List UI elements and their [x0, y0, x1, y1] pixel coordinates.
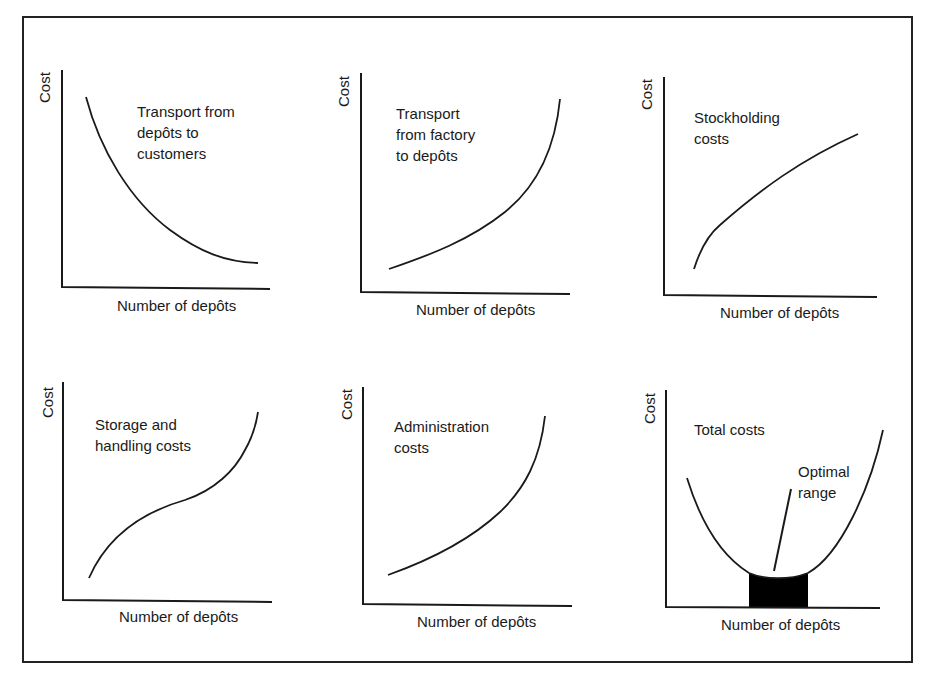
cost-curve: [687, 430, 883, 578]
panel-total-costs: Cost Number of depôts Total costs Optima…: [641, 390, 883, 633]
annotation-line-1: Optimal: [798, 463, 850, 480]
panel-title-line-2: handling costs: [95, 437, 191, 454]
cost-curve: [389, 99, 560, 269]
panel-title-line-1: Stockholding: [694, 109, 780, 126]
panel-storage-handling-costs: Cost Number of depôts Storage and handli…: [39, 382, 272, 625]
depot-cost-diagram: Cost Number of depôts Transport from dep…: [0, 0, 927, 681]
panel-stockholding-costs: Cost Number of depôts Stockholding costs: [638, 77, 877, 321]
y-axis-label: Cost: [638, 78, 655, 110]
x-axis-label: Number of depôts: [119, 608, 238, 625]
y-axis-label: Cost: [36, 71, 53, 103]
panel-title-line-2: costs: [394, 439, 429, 456]
panel-title-line-2: depôts to: [137, 124, 199, 141]
x-axis-label: Number of depôts: [720, 304, 839, 321]
panel-title-line-1: Transport: [396, 105, 460, 122]
y-axis-label: Cost: [39, 386, 56, 418]
panel-administration-costs: Cost Number of depôts Administration cos…: [338, 387, 572, 630]
panel-title-line-1: Storage and: [95, 416, 177, 433]
y-axis-label: Cost: [641, 392, 658, 424]
cost-curve: [694, 134, 858, 269]
y-axis-label: Cost: [335, 75, 352, 107]
panel-title-line-1: Administration: [394, 418, 489, 435]
panel-title-line-2: costs: [694, 130, 729, 147]
optimal-range-pointer: [774, 489, 791, 571]
panel-title-line-2: from factory: [396, 126, 476, 143]
panel-transport-depots-to-customers: Cost Number of depôts Transport from dep…: [36, 70, 270, 314]
annotation-line-2: range: [798, 484, 836, 501]
x-axis-label: Number of depôts: [417, 613, 536, 630]
panel-title-line-3: customers: [137, 145, 206, 162]
x-axis-label: Number of depôts: [117, 297, 236, 314]
x-axis-label: Number of depôts: [416, 301, 535, 318]
cost-curve: [86, 97, 258, 263]
panel-title-line-1: Total costs: [694, 421, 765, 438]
y-axis-label: Cost: [338, 388, 355, 420]
x-axis-label: Number of depôts: [721, 616, 840, 633]
axes: [361, 73, 570, 294]
panel-title-line-1: Transport from: [137, 103, 235, 120]
panel-transport-factory-to-depots: Cost Number of depôts Transport from fac…: [335, 73, 570, 318]
panel-title-line-3: to depôts: [396, 147, 458, 164]
